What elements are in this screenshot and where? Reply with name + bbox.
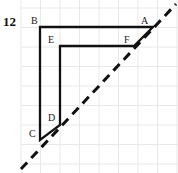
vertex-label-e: E — [48, 35, 54, 45]
vertex-label-a: A — [141, 16, 148, 26]
vertex-label-b: B — [31, 16, 38, 26]
vertex-label-d: D — [48, 113, 55, 123]
l-shape-outline — [40, 27, 153, 140]
vertex-label-c: C — [29, 129, 36, 139]
vertex-label-f: F — [124, 35, 130, 45]
geometry-figure: 12 BAEFDC — [0, 0, 178, 173]
figure-canvas — [0, 0, 178, 173]
